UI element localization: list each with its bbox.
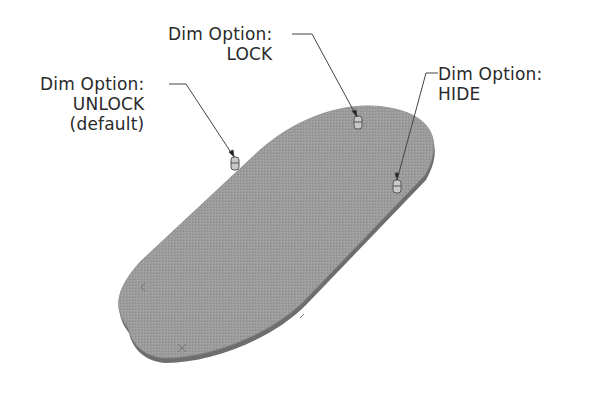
plate-top-face	[119, 106, 434, 358]
leader-lock	[292, 34, 357, 117]
pin-hide	[393, 180, 401, 193]
callout-unlock-title: Dim Option:	[40, 74, 144, 94]
callout-hide-title: Dim Option:	[438, 64, 542, 84]
callout-lock-value: LOCK	[168, 44, 272, 64]
callout-unlock-note: (default)	[40, 114, 144, 134]
leader-unlock	[169, 84, 234, 157]
callout-unlock-value: UNLOCK	[40, 94, 144, 114]
cad-model-view	[0, 0, 593, 402]
callout-hide-value: HIDE	[438, 84, 542, 104]
callout-unlock: Dim Option: UNLOCK (default)	[40, 74, 144, 134]
plate-body	[119, 106, 435, 363]
callout-lock: Dim Option: LOCK	[168, 24, 272, 64]
callout-hide: Dim Option: HIDE	[438, 64, 542, 104]
pin-lock	[354, 116, 362, 129]
pin-unlock	[231, 157, 239, 170]
callout-lock-title: Dim Option:	[168, 24, 272, 44]
